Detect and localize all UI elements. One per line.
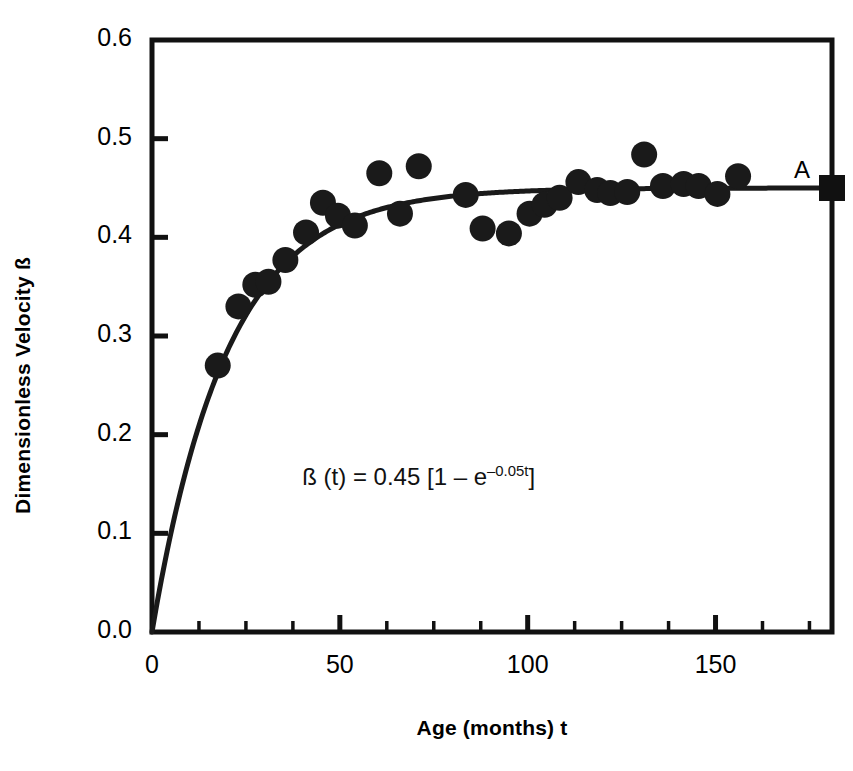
y-tick-label: 0.2 (46, 418, 132, 447)
y-tick-label: 0.4 (46, 220, 132, 249)
data-point (470, 215, 496, 241)
y-tick-label: 0.6 (46, 23, 132, 52)
data-point (406, 153, 432, 179)
data-point (704, 181, 730, 207)
equation-exponent: –0.05t (487, 463, 528, 479)
data-points (205, 141, 751, 378)
data-point (453, 182, 479, 208)
y-axis-title-text: Dimensionless Velocity ß (11, 257, 35, 514)
x-axis-title: Age (months) t (151, 716, 833, 740)
data-point (614, 179, 640, 205)
data-point (205, 353, 231, 379)
x-tick-label: 50 (295, 650, 385, 679)
data-point (293, 219, 319, 245)
data-point (366, 160, 392, 186)
x-tick-label: 100 (483, 650, 573, 679)
equation-lead: ß (t) = 0.45 [1 – e (302, 463, 487, 490)
axis-ticks (152, 139, 809, 632)
x-tick-label: 150 (671, 650, 761, 679)
asymptote-letter-label: A (794, 156, 810, 184)
data-point (255, 269, 281, 295)
x-tick-label: 0 (107, 650, 197, 679)
fit-equation-annotation: ß (t) = 0.45 [1 – e–0.05t] (302, 463, 535, 491)
asymptote-marker (819, 175, 845, 201)
data-point (272, 247, 298, 273)
y-tick-label: 0.5 (46, 122, 132, 151)
data-point (342, 212, 368, 238)
axis-frame (152, 40, 832, 632)
data-point (725, 163, 751, 189)
data-point (631, 141, 657, 167)
y-tick-label: 0.3 (46, 319, 132, 348)
data-point (496, 220, 522, 246)
data-point (225, 293, 251, 319)
data-point (387, 201, 413, 227)
y-tick-label: 0.1 (46, 516, 132, 545)
equation-end: ] (528, 463, 535, 490)
y-tick-label: 0.0 (46, 615, 132, 644)
figure-container: Dimensionless Velocity ß Age (months) t … (0, 0, 853, 771)
y-axis-title: Dimensionless Velocity ß (0, 0, 46, 771)
fit-curve (152, 188, 832, 632)
